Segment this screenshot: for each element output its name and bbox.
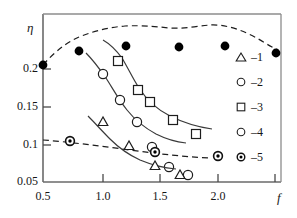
legend-label-1: –1 xyxy=(251,50,263,65)
chart-figure: η f 0.2 0.15 0.1 0.05 0.5 1.0 1.5 2.0 –1… xyxy=(0,0,297,218)
data-point-series-4 xyxy=(122,42,131,51)
series-3-curve xyxy=(103,40,212,139)
x-tick-label-0: 0.5 xyxy=(25,189,61,204)
legend-label-2: –2 xyxy=(251,75,263,90)
y-tick-label-3: 0.05 xyxy=(2,174,38,189)
y-axis-ticks xyxy=(43,69,51,145)
y-axis-label: η xyxy=(27,20,33,36)
circle-dotted-icon xyxy=(233,150,249,164)
circle-open-icon xyxy=(233,75,249,89)
data-point-series-4 xyxy=(221,42,230,51)
legend-item-1: –1 xyxy=(233,50,263,64)
legend-item-4: –4 xyxy=(233,125,263,139)
x-axis-label: f xyxy=(277,190,281,206)
square-open-icon xyxy=(233,100,249,114)
x-tick-label-3: 2.0 xyxy=(200,189,236,204)
data-point-series-3 xyxy=(114,57,201,139)
data-point-series-4 xyxy=(75,47,84,56)
x-tick-label-1: 1.0 xyxy=(85,189,121,204)
data-point-series-2 xyxy=(98,69,192,179)
legend-label-5: –5 xyxy=(251,150,263,165)
y-tick-label-2: 0.1 xyxy=(2,137,38,152)
data-point-series-4 xyxy=(272,49,281,58)
circle-open-icon xyxy=(233,125,249,139)
legend-label-3: –3 xyxy=(251,100,263,115)
x-tick-label-2: 1.5 xyxy=(142,189,178,204)
triangle-open-icon xyxy=(233,50,249,64)
legend-item-2: –2 xyxy=(233,75,263,89)
legend-item-3: –3 xyxy=(233,100,263,114)
data-point-series-5 xyxy=(66,137,223,161)
data-point-series-4 xyxy=(39,61,48,70)
data-point-series-4 xyxy=(175,43,184,52)
legend-item-5: –5 xyxy=(233,150,263,164)
y-tick-label-0: 0.2 xyxy=(2,61,38,76)
y-tick-label-1: 0.15 xyxy=(2,99,38,114)
legend-label-4: –4 xyxy=(251,125,263,140)
